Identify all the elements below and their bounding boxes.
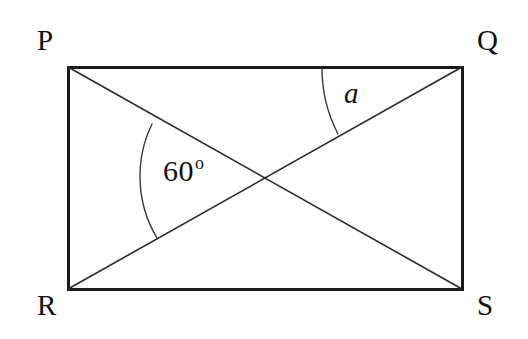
- degree-symbol-icon: o: [195, 153, 205, 173]
- geometry-canvas: [0, 0, 528, 339]
- angle-label-sixty-degrees: 60o: [163, 156, 204, 186]
- vertex-label-r: R: [37, 291, 56, 320]
- angle-label-a: a: [344, 79, 359, 108]
- geometry-figure: P Q R S 60o a: [0, 0, 528, 339]
- vertex-label-q: Q: [477, 26, 498, 55]
- vertex-label-s: S: [477, 291, 493, 320]
- angle-value-sixty: 60: [163, 154, 194, 187]
- vertex-label-p: P: [37, 26, 53, 55]
